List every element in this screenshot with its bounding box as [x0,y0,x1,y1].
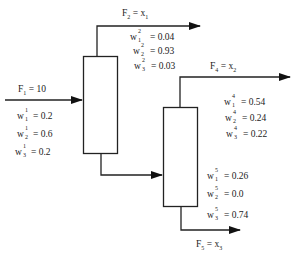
fraction-f2-1: w21 = 0.04 [130,33,174,43]
stream-label-f1: F1 = 10 [18,85,46,96]
fraction-f4-2: w42 = 0.24 [225,114,266,124]
stream-label-f5: F5 = x3 [196,240,222,251]
fraction-f1-3: w13 = 0.2 [15,148,51,158]
fraction-f2-3: w23 = 0.03 [134,62,175,72]
fraction-f5-3: w53 = 0.74 [207,211,248,221]
stream-label-f2: F2 = x1 [122,9,148,20]
fraction-f4-1: w41 = 0.54 [224,98,265,108]
fraction-f5-1: w51 = 0.26 [207,172,248,182]
fraction-f5-2: w52 = 0.0 [207,190,244,200]
column-2 [164,108,198,207]
fraction-f4-3: w43 = 0.22 [226,130,267,140]
fraction-f2-2: w22 = 0.93 [133,47,174,57]
fraction-f1-1: w11 = 0.2 [17,112,53,122]
column-1 [84,57,118,154]
transfer-arrow-f3 [101,153,162,175]
fraction-f1-2: w12 = 0.6 [17,130,53,140]
stream-label-f4: F4 = x2 [210,62,236,73]
